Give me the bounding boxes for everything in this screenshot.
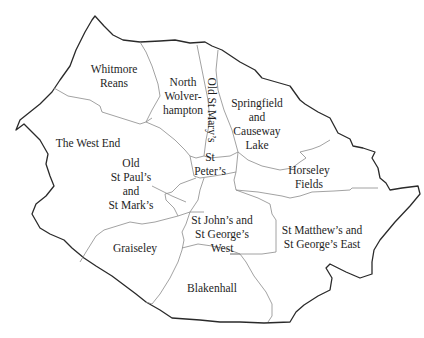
ward-label-old-st-pauls-st-marks: Old St Paul’s and St Mark’s: [108, 156, 153, 212]
boundary-whitmore-westend: [54, 88, 152, 124]
ward-label-horseley-fields: Horseley Fields: [288, 163, 330, 191]
ward-label-st-johns-st-georges-west: St John’s and St George’s West: [191, 213, 252, 255]
boundary-graiseley-blakenhall: [146, 250, 182, 304]
ward-label-whitmore-reans: Whitmore Reans: [91, 62, 138, 90]
boundary-blakenhall-east: [240, 254, 272, 322]
ward-label-blakenhall: Blakenhall: [187, 281, 237, 295]
ward-label-graiseley: Graiseley: [113, 241, 157, 255]
ward-label-old-st-marys: Old St Mary’s: [205, 77, 219, 142]
boundary-oldstpauls-detail: [152, 186, 186, 202]
ward-label-st-peters: St Peter’s: [194, 150, 226, 178]
boundary-westend-oldstpauls: [165, 178, 204, 216]
ward-label-st-matthews-st-georges-east: St Matthew’s and St George’s East: [282, 223, 363, 251]
boundary-oldstpauls-graiseley: [80, 216, 178, 262]
ward-label-the-west-end: The West End: [56, 136, 121, 150]
ward-label-north-wolverhampton: North Wolver- hampton: [163, 75, 203, 117]
boundary-north-westend: [146, 122, 190, 156]
boundary-whitmore-north: [140, 42, 160, 122]
ward-label-springfield-causeway-lake: Springfield and Causeway Lake: [231, 96, 283, 152]
